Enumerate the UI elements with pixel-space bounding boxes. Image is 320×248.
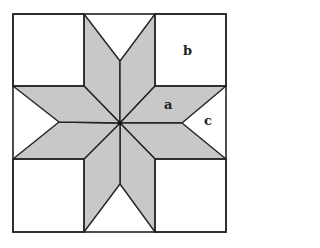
label-b: b xyxy=(183,44,192,57)
label-a: a xyxy=(164,98,172,111)
label-c: c xyxy=(204,114,212,127)
center-point xyxy=(118,121,122,125)
